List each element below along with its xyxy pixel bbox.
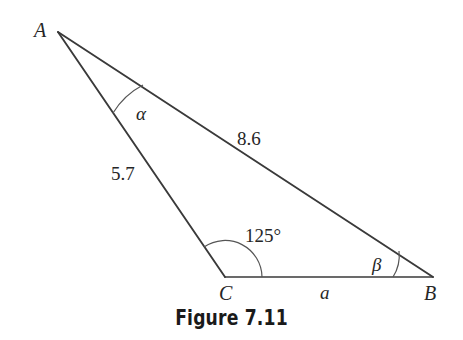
figure-page: A C B 8.6 5.7 a α 125° β Figure 7.11 — [0, 0, 463, 340]
side-label-ac: 5.7 — [111, 164, 135, 183]
figure-caption: Figure 7.11 — [42, 306, 422, 330]
vertex-label-b: B — [424, 283, 436, 303]
side-label-cb: a — [320, 283, 330, 302]
angle-label-beta: β — [372, 255, 381, 274]
side-label-ab: 8.6 — [237, 129, 261, 148]
vertex-label-a: A — [34, 20, 46, 40]
angle-label-alpha: α — [136, 104, 146, 123]
vertex-label-c: C — [219, 283, 232, 303]
angle-label-gamma: 125° — [245, 226, 281, 245]
side-ac-line — [58, 32, 225, 277]
